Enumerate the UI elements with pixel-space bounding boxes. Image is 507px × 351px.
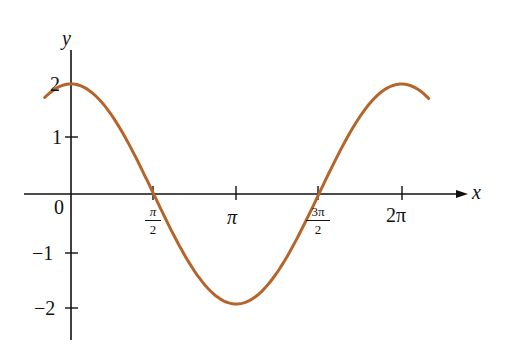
y-tick-minus-2: −2 — [34, 298, 55, 318]
x-tick-3pi-half: 3π 2 — [306, 205, 330, 236]
plot-canvas — [0, 0, 507, 351]
x-tick-2pi: 2π — [386, 205, 406, 225]
x-tick-pi: π — [227, 207, 237, 227]
y-axis-label: y — [62, 28, 71, 48]
x-axis-arrow-icon — [456, 190, 468, 198]
y-tick-minus-1: −1 — [32, 243, 53, 263]
x-axis-label: x — [472, 182, 481, 202]
y-tick-2: 2 — [50, 74, 60, 94]
y-tick-1: 1 — [52, 127, 62, 147]
x-tick-pi-half: π 2 — [145, 205, 161, 236]
origin-label: 0 — [54, 197, 64, 217]
